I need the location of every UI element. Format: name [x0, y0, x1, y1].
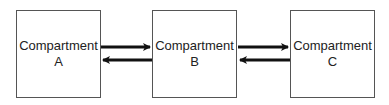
arrows-layer — [0, 0, 389, 105]
